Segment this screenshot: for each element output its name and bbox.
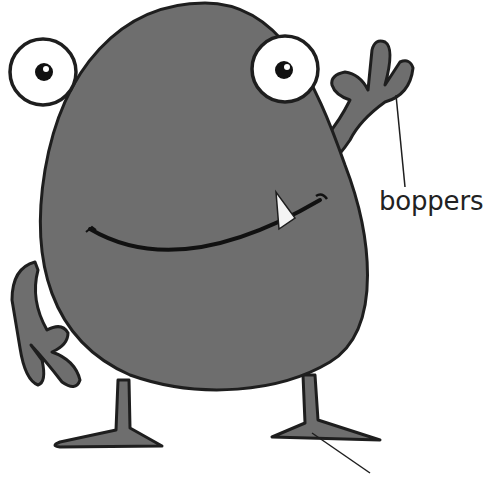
right-leg — [272, 375, 380, 440]
boppers-pointer — [396, 95, 405, 187]
left-leg — [55, 380, 162, 447]
label-boppers: boppers — [379, 186, 483, 216]
right-eye — [252, 36, 318, 102]
left-eye — [10, 39, 76, 105]
monster-illustration — [0, 0, 492, 487]
